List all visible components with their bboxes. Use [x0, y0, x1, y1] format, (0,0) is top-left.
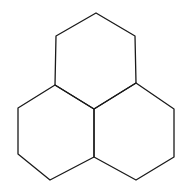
- fused-hexagons-diagram: [0, 0, 182, 196]
- left-hexagon: [18, 85, 94, 180]
- top-hexagon: [55, 13, 136, 109]
- right-hexagon: [94, 83, 174, 180]
